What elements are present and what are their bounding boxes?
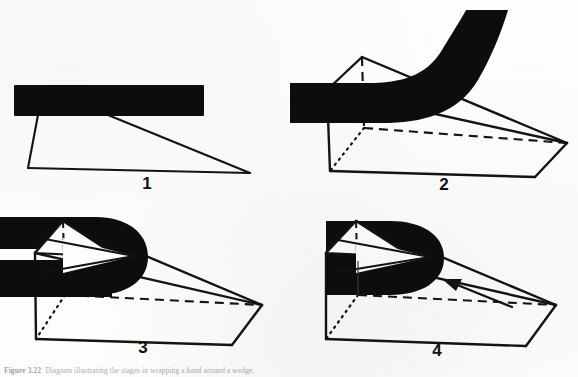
panel-3: 3 [0, 205, 290, 365]
figure-caption: Figure 3.22 Diagram illustrating the sta… [4, 366, 564, 375]
panel-3-number: 3 [128, 338, 158, 358]
black-band-1 [14, 85, 204, 116]
wedge-outline-1 [28, 115, 250, 173]
panel-1-number: 1 [132, 174, 162, 194]
black-band-2 [290, 10, 508, 123]
panel-1: 1 [0, 60, 290, 185]
panel-2: 2 [290, 10, 578, 190]
panel-2-number: 2 [429, 175, 459, 195]
figure-caption-label: Figure 3.22 [4, 366, 41, 375]
black-band-3-lower [0, 260, 112, 297]
wedge-hidden-edge-dotted-3 [36, 295, 65, 339]
wedge-hidden-edge-dotted-4 [326, 295, 358, 339]
panel-2-drawing [290, 10, 578, 190]
wedge-hidden-edge-dotted-2 [330, 128, 364, 171]
panel-1-drawing [0, 60, 290, 185]
panel-4: 4 [290, 205, 578, 365]
figure-caption-text: Diagram illustrating the stages in wrapp… [45, 366, 254, 375]
panel-4-number: 4 [422, 341, 452, 361]
figure-page: 1 [0, 0, 578, 377]
